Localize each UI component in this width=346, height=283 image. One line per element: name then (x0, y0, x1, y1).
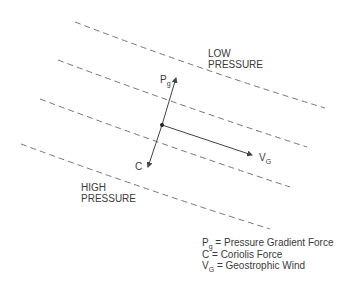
legend-item-c: C = Coriolis Force (202, 249, 333, 260)
isobar-2 (58, 60, 307, 147)
legend-item-vg: VG = Geostrophic Wind (202, 260, 333, 272)
legend-item-pg: Pg = Pressure Gradient Force (202, 237, 333, 249)
geostrophic-wind-arrow (162, 125, 252, 155)
coriolis-arrow (148, 125, 162, 167)
pg-vector-label: Pg (160, 74, 171, 86)
isobar-1 (75, 22, 325, 108)
legend: Pg = Pressure Gradient Force C = Corioli… (202, 237, 333, 272)
isobar-3 (40, 99, 290, 187)
vg-vector-label: VG (259, 152, 271, 164)
c-vector-label: C (135, 161, 142, 172)
low-pressure-label: LOW PRESSURE (208, 48, 263, 70)
high-pressure-label: HIGH PRESSURE (81, 182, 136, 204)
isobar-4 (21, 144, 270, 229)
parcel-dot (160, 123, 164, 127)
